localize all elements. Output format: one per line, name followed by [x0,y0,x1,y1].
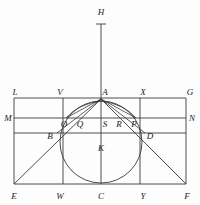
point-label-Q: Q [77,120,84,129]
point-label-R: R [116,120,122,129]
point-label-F: F [184,192,190,201]
point-label-W: W [56,192,64,201]
point-label-D: D [147,132,154,141]
point-label-E: E [11,192,17,201]
geometry-figure: H L V A X G M N O Q S R P B D K E W C Y … [0,0,200,205]
point-label-Y: Y [140,192,145,201]
point-label-H: H [98,8,105,17]
point-label-L: L [12,88,17,97]
point-label-S: S [103,120,108,129]
point-label-O: O [61,120,68,129]
point-label-A: A [102,88,108,97]
diagonal-line-AD-extended [101,99,186,184]
point-label-M: M [4,114,12,123]
point-label-X: X [140,88,146,97]
point-label-P: P [131,120,137,129]
point-label-B: B [47,132,53,141]
point-label-N: N [189,114,195,123]
point-label-C: C [98,192,104,201]
point-label-V: V [57,88,63,97]
geometry-canvas [0,0,200,205]
point-label-G: G [187,88,194,97]
point-label-K: K [98,144,104,153]
diagonal-line-EAD [14,99,101,184]
